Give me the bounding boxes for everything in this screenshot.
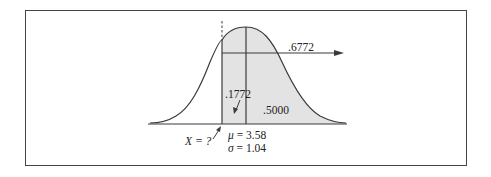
mean-label: μ = 3.58 — [228, 130, 266, 142]
right-area-label: .5000 — [263, 105, 289, 117]
arrow-right-icon — [334, 50, 344, 56]
std-dev-label: σ = 1.04 — [228, 143, 266, 155]
normal-distribution-figure: .6772 .1772 .5000 X = ? μ = 3.58 σ = 1.0… — [0, 0, 491, 177]
unknown-x-label: X = ? — [185, 136, 211, 148]
upper-area-label: .6772 — [288, 42, 314, 54]
std-dev-value: = 1.04 — [234, 142, 266, 154]
arrow-up-icon — [216, 126, 221, 132]
middle-area-label: .1772 — [225, 89, 251, 101]
mean-value: = 3.58 — [234, 129, 266, 141]
x-pointer — [213, 130, 219, 139]
